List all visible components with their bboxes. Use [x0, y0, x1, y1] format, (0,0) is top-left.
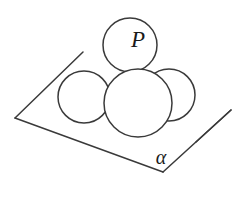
- left-sphere: [58, 71, 110, 123]
- sphere-label-p: P: [130, 27, 145, 52]
- geometry-diagram: P α: [0, 0, 244, 201]
- front-sphere: [104, 69, 172, 137]
- plane-label-alpha: α: [156, 146, 167, 168]
- figure-canvas: P α: [0, 0, 244, 201]
